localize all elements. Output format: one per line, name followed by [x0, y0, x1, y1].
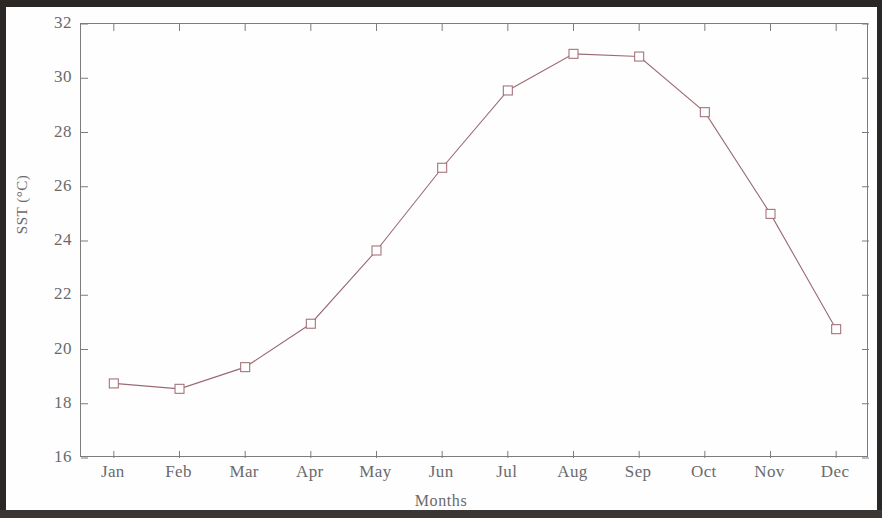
data-point-marker	[438, 163, 447, 172]
y-tick-label: 30	[32, 67, 72, 87]
x-tick-label: Oct	[669, 462, 739, 482]
figure-root: SST (°C) 161820222426283032 JanFebMarApr…	[0, 0, 882, 518]
plot-area	[80, 23, 868, 457]
x-tick-label: Aug	[538, 462, 608, 482]
y-tick-label: 22	[32, 284, 72, 304]
y-tick-label: 28	[32, 122, 72, 142]
x-axis-title: Months	[0, 492, 882, 510]
data-point-marker	[175, 384, 184, 393]
data-point-marker	[635, 52, 644, 61]
data-point-marker	[241, 363, 250, 372]
x-tick-label: Sep	[603, 462, 673, 482]
x-tick-label: Jan	[78, 462, 148, 482]
x-tick-label: Mar	[209, 462, 279, 482]
x-axis-tick-labels: JanFebMarAprMayJunJulAugSepOctNovDec	[80, 462, 868, 488]
x-tick-label: Apr	[275, 462, 345, 482]
y-tick-label: 18	[32, 393, 72, 413]
data-point-marker	[766, 209, 775, 218]
data-point-marker	[569, 49, 578, 58]
line-chart-svg	[81, 24, 869, 458]
data-point-marker	[700, 108, 709, 117]
data-point-marker	[372, 246, 381, 255]
scan-edge-right	[877, 0, 882, 518]
x-tick-label: Jul	[472, 462, 542, 482]
x-tick-label: May	[341, 462, 411, 482]
data-point-marker	[306, 319, 315, 328]
y-tick-label: 26	[32, 176, 72, 196]
series-markers-sst	[109, 49, 840, 393]
y-tick-label: 32	[32, 13, 72, 33]
data-point-marker	[832, 325, 841, 334]
x-tick-label: Nov	[735, 462, 805, 482]
axis-tick-marks	[81, 24, 869, 458]
data-point-marker	[109, 379, 118, 388]
series-line-sst	[114, 54, 836, 389]
data-point-marker	[503, 86, 512, 95]
x-tick-label: Feb	[144, 462, 214, 482]
y-axis-tick-labels: 161820222426283032	[24, 23, 72, 457]
x-tick-label: Dec	[800, 462, 870, 482]
y-tick-label: 20	[32, 339, 72, 359]
scan-edge-top	[0, 0, 882, 7]
y-tick-label: 16	[32, 447, 72, 467]
x-tick-label: Jun	[406, 462, 476, 482]
scan-edge-bottom	[0, 510, 882, 518]
y-tick-label: 24	[32, 230, 72, 250]
